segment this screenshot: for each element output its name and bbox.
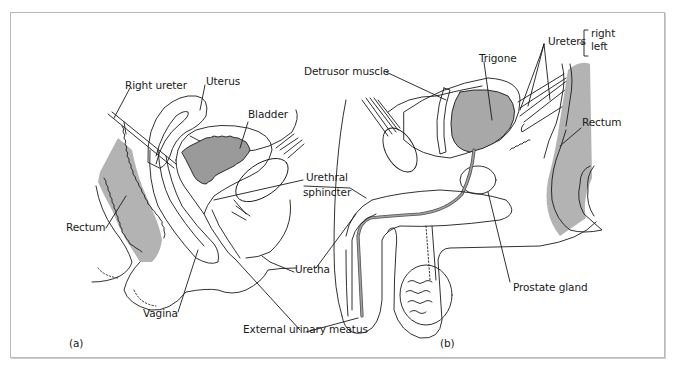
label-urethral-sphincter-line1: Urethral — [306, 172, 348, 183]
label-uterus: Uterus — [206, 76, 240, 87]
label-ureters: Ureters — [548, 36, 586, 47]
label-ureters-right: right — [591, 28, 615, 39]
label-prostate-gland: Prostate gland — [513, 282, 588, 293]
panel-label-b: (b) — [440, 338, 455, 349]
label-ureters-left: left — [591, 41, 608, 52]
label-vagina: Vagina — [143, 308, 178, 319]
panel-label-a: (a) — [69, 338, 83, 349]
label-rectum-a: Rectum — [66, 222, 105, 233]
trigone-lumen-b — [451, 90, 515, 152]
label-bladder: Bladder — [248, 109, 288, 120]
label-trigone: Trigone — [479, 53, 517, 64]
label-urethral-sphincter-line2: sphincter — [303, 187, 351, 198]
rectum-shape-b — [547, 63, 593, 236]
label-rectum-b: Rectum — [582, 117, 621, 128]
female-anatomy-drawing — [92, 85, 304, 330]
label-detrusor-muscle: Detrusor muscle — [304, 66, 389, 77]
label-right-ureter: Right ureter — [125, 80, 187, 91]
bladder-lumen-a — [182, 136, 250, 184]
label-uretha: Uretha — [295, 264, 330, 275]
label-external-urinary-meatus: External urinary meatus — [243, 324, 368, 335]
anatomy-illustration — [0, 0, 677, 370]
